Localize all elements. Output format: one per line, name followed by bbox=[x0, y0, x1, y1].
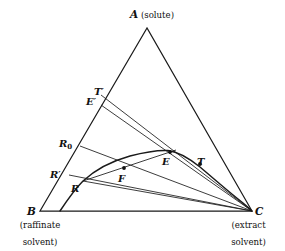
vertex-descriptor-A: (solute) bbox=[141, 10, 174, 20]
point-subscript-R-zero: 0 bbox=[67, 142, 72, 151]
vertex-descriptor-C-line1: (extract bbox=[231, 220, 265, 230]
vertex-descriptor-B: (raffinate solvent) bbox=[0, 215, 80, 249]
point-prime-T-prime: ′ bbox=[101, 87, 103, 97]
point-label-T: T bbox=[197, 152, 204, 169]
point-symbol-T: T bbox=[197, 156, 204, 167]
point-label-E-prime: E′ bbox=[86, 92, 96, 109]
line-R-C bbox=[83, 181, 252, 211]
vertex-descriptor-B-line1: (raffinate bbox=[20, 220, 61, 230]
point-symbol-F: F bbox=[118, 173, 125, 184]
binodal-curve bbox=[60, 150, 252, 211]
tie-lines-group bbox=[69, 95, 252, 211]
point-label-R: R bbox=[71, 179, 79, 196]
vertex-descriptor-C-line2: solvent) bbox=[231, 237, 266, 247]
line-Rprime-C bbox=[69, 175, 252, 211]
point-symbol-E: E bbox=[162, 156, 170, 167]
ternary-phase-diagram-figure: A (solute) B (raffinate solvent) C (extr… bbox=[0, 0, 285, 251]
point-label-F: F bbox=[118, 169, 125, 186]
point-symbol-E-prime: E bbox=[86, 96, 94, 107]
point-prime-R-prime: ′ bbox=[58, 170, 60, 180]
vertex-label-A: A (solute) bbox=[130, 5, 174, 22]
point-label-R-zero: R0 bbox=[59, 134, 72, 151]
point-label-R-prime: R′ bbox=[50, 165, 61, 182]
point-symbol-R: R bbox=[71, 183, 79, 194]
vertex-symbol-A: A bbox=[130, 8, 138, 20]
vertex-descriptor-C: (extract solvent) bbox=[212, 215, 285, 249]
vertex-descriptor-B-line2: solvent) bbox=[23, 237, 58, 247]
point-prime-E-prime: ′ bbox=[94, 97, 96, 107]
point-label-E: E bbox=[162, 152, 170, 169]
diagram-canvas bbox=[0, 0, 285, 251]
